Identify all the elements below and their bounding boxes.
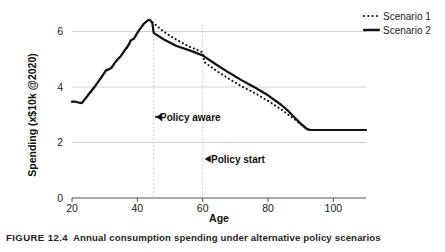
legend-label-1: Scenario 1 xyxy=(383,11,431,22)
x-tick-label-80: 80 xyxy=(262,202,274,214)
y-tick-label-4: 4 xyxy=(57,81,63,93)
annotation-label-2: Policy start xyxy=(211,154,266,165)
annotation-label-1: Policy aware xyxy=(160,112,221,123)
y-tick-label-2: 2 xyxy=(57,136,63,148)
figure-container: 20406080100 0246 Age Spending (x$10k @20… xyxy=(0,0,445,252)
x-tick-label-20: 20 xyxy=(66,202,78,214)
x-tick-labels-group: 20406080100 xyxy=(66,202,342,214)
x-tick-label-40: 40 xyxy=(131,202,143,214)
caption-description: Annual consumption spending under altern… xyxy=(68,232,381,243)
annotations-group: Policy awarePolicy start xyxy=(155,112,266,165)
x-axis-title: Age xyxy=(209,212,229,224)
legend-label-2: Scenario 2 xyxy=(383,25,431,36)
x-tick-label-60: 60 xyxy=(197,202,209,214)
y-axis-title: Spending (x$10k @2020) xyxy=(26,53,38,176)
chart-plot-area: 20406080100 0246 Age Spending (x$10k @20… xyxy=(0,0,445,226)
y-tick-label-0: 0 xyxy=(57,192,63,204)
figure-caption: FIGURE 12.4Annual consumption spending u… xyxy=(6,232,440,243)
x-tick-label-100: 100 xyxy=(325,202,343,214)
y-tick-label-6: 6 xyxy=(57,25,63,37)
y-tick-labels-group: 0246 xyxy=(57,25,63,204)
annotation-arrowhead-2 xyxy=(205,156,211,163)
chart-legend: Scenario 1Scenario 2 xyxy=(364,11,431,36)
gridlines-group xyxy=(72,32,366,143)
caption-figure-number: FIGURE 12.4 xyxy=(6,232,68,243)
line-chart: 20406080100 0246 Age Spending (x$10k @20… xyxy=(0,0,445,226)
